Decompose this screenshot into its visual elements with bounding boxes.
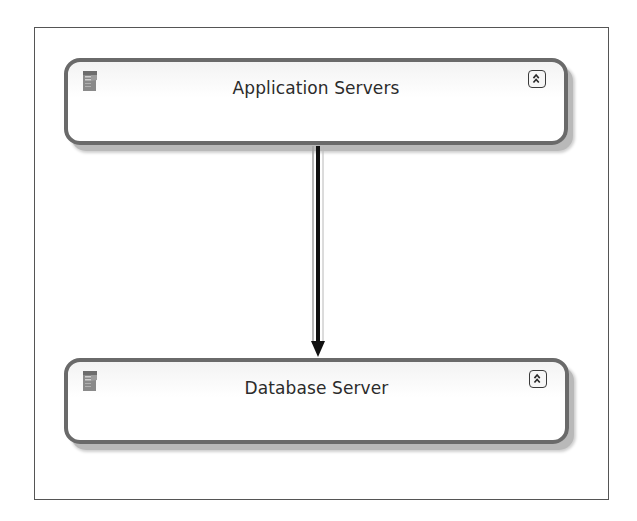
node-application-servers[interactable]: Application Servers [64,58,568,145]
node-title: Application Servers [68,78,564,98]
collapse-button[interactable] [529,370,547,388]
node-title: Database Server [68,378,565,398]
chevrons-up-icon [529,71,545,87]
node-database-server[interactable]: Database Server [64,358,569,444]
collapse-button[interactable] [528,70,546,88]
chevrons-up-icon [530,371,546,387]
